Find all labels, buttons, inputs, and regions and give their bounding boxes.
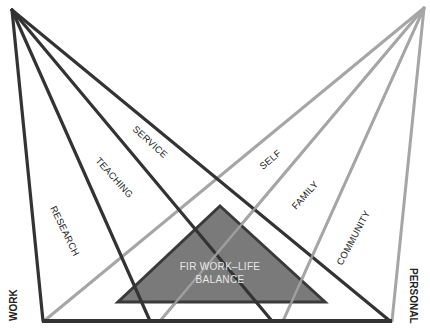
label-community: COMMUNITY [334,208,372,267]
label-service: SERVICE [131,123,170,160]
work-line-edge [12,10,43,321]
label-self: SELF [257,147,283,171]
label-family: FAMILY [289,178,320,211]
center-label-line1: FIR WORK–LIFE [180,261,261,272]
label-teaching: TEACHING [94,155,136,200]
label-research: RESEARCH [48,204,82,258]
label-work-axis: WORK [8,289,19,321]
label-personal-axis: PERSONAL [408,268,419,324]
work-life-balance-diagram: RESEARCH TEACHING SERVICE SELF FAMILY CO… [0,0,430,330]
center-triangle [118,206,325,302]
center-label-line2: BALANCE [196,274,245,285]
work-line-2 [12,10,150,321]
